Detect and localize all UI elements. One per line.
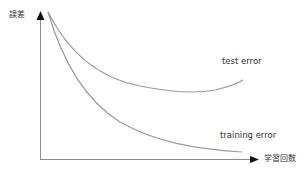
y-axis-label: 誤差 [9,11,25,19]
y-axis-arrow-icon [37,11,45,20]
x-axis-arrow-icon [250,156,259,163]
x-axis-label: 学習回数 [264,155,296,163]
chart-canvas [0,0,307,175]
test-error-label: test error [222,57,262,66]
training-error-curve [48,12,242,152]
training-error-label: training error [220,131,276,140]
test-error-curve [48,12,243,92]
